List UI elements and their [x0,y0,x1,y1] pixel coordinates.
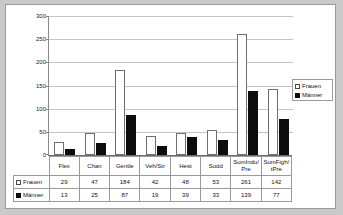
table-cell-r0-c2: 184 [110,176,140,189]
bar-männer-3 [157,146,167,155]
table-row-header-männer: Männer [14,189,50,202]
table-cell-r1-c0: 13 [49,189,79,202]
table-row-label: Männer [23,192,43,198]
bar-frauen-3 [146,136,156,155]
table-cell-r0-c6: 261 [231,176,261,189]
table-row: Männer13258719393313977 [14,189,292,202]
table-cell-r0-c7: 142 [261,176,291,189]
table-swatch-frauen-icon [16,180,21,185]
table-cell-r1-c4: 39 [170,189,200,202]
table-column-header-0: Flex [49,157,79,176]
table-column-header-4: Hest [170,157,200,176]
y-axis-tick-labels: 050100150200250300 [20,13,46,159]
y-axis-tick-200: 200 [20,59,46,65]
table-column-header-1: Chan [79,157,109,176]
bar-frauen-7 [268,89,278,155]
bar-group-flex [49,16,80,155]
table-column-header-2: Gentle [110,157,140,176]
plot-area [48,16,292,156]
bar-männer-2 [126,115,136,155]
bar-frauen-0 [54,142,64,155]
bar-männer-0 [65,149,75,155]
table-cell-r0-c4: 48 [170,176,200,189]
bar-frauen-6 [237,34,247,155]
table-cell-r0-c5: 53 [201,176,231,189]
data-table: FlexChanGentleVeh/​StrHestSuddSumIndu/​P… [13,156,292,202]
bar-series-container [49,16,293,155]
bar-group-sumindu-pre [232,16,263,155]
bar-männer-5 [218,140,228,155]
bar-männer-7 [279,119,289,155]
table-cell-r1-c1: 25 [79,189,109,202]
bar-group-sudd [202,16,233,155]
bar-group-gentle [110,16,141,155]
bar-männer-6 [248,91,258,155]
chart-legend: Frauen Männer [292,79,333,101]
y-axis-tick-300: 300 [20,13,46,19]
bar-frauen-2 [115,70,125,155]
table-row-label: Frauen [23,179,42,185]
legend-swatch-frauen-icon [295,84,300,89]
table-column-header-5: Sudd [201,157,231,176]
y-axis-tick-250: 250 [20,36,46,42]
y-axis-tick-50: 50 [20,129,46,135]
table-corner-cell [14,157,50,176]
legend-swatch-maenner-icon [295,93,300,98]
chart-frame: 050100150200250300 Frauen Männer FlexCha… [5,4,336,209]
table-column-header-7: SumFigh/​tPre [261,157,291,176]
y-axis-tick-150: 150 [20,83,46,89]
table-row-header-frauen: Frauen [14,176,50,189]
table-cell-r0-c0: 29 [49,176,79,189]
table-cell-r1-c7: 77 [261,189,291,202]
legend-item-maenner: Männer [295,91,330,100]
bar-group-hest [171,16,202,155]
table-cell-r1-c5: 33 [201,189,231,202]
bar-frauen-1 [85,133,95,155]
table-cell-r1-c2: 87 [110,189,140,202]
bar-männer-4 [187,137,197,155]
bar-männer-1 [96,143,106,155]
legend-item-frauen: Frauen [295,82,330,91]
table-cell-r1-c6: 139 [231,189,261,202]
table-swatch-männer-icon [16,193,21,198]
table-cell-r0-c1: 47 [79,176,109,189]
legend-label-frauen: Frauen [302,83,321,90]
table-cell-r0-c3: 42 [140,176,170,189]
legend-label-maenner: Männer [302,92,322,99]
table-cell-r1-c3: 19 [140,189,170,202]
table-column-header-6: SumIndu/​Pre [231,157,261,176]
y-axis-tick-100: 100 [20,106,46,112]
bar-frauen-4 [176,133,186,155]
bar-group-sumfigh-tpre [263,16,294,155]
table-row: Frauen2947184424853261142 [14,176,292,189]
table-header-row: FlexChanGentleVeh/​StrHestSuddSumIndu/​P… [14,157,292,176]
bar-frauen-5 [207,130,217,155]
bar-group-veh-str [141,16,172,155]
bar-group-chan [80,16,111,155]
table-column-header-3: Veh/​Str [140,157,170,176]
